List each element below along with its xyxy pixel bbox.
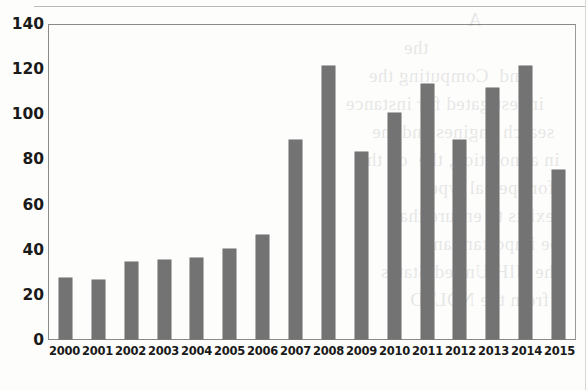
- bar-2003[interactable]: [158, 260, 171, 339]
- x-axis-tick-label: 2005: [213, 344, 246, 358]
- y-axis-tick-label: 80: [2, 150, 44, 168]
- y-axis-tick-label: 120: [2, 60, 44, 78]
- bar-2014[interactable]: [519, 66, 532, 339]
- bar-slot: [444, 25, 477, 339]
- x-axis-tick-label: 2010: [378, 344, 411, 358]
- bar-2005[interactable]: [223, 249, 236, 339]
- bar-slot: [49, 25, 82, 339]
- bar-2011[interactable]: [421, 84, 434, 339]
- y-axis-tick-label: 0: [2, 331, 44, 349]
- bar-slot: [411, 25, 444, 339]
- bar-2007[interactable]: [289, 140, 302, 339]
- x-axis-tick-label: 2011: [411, 344, 444, 358]
- x-axis-tick-label: 2006: [246, 344, 279, 358]
- bar-slot: [82, 25, 115, 339]
- plot-area: [48, 24, 576, 340]
- x-axis-tick-label: 2007: [279, 344, 312, 358]
- bar-series: [49, 25, 575, 339]
- bar-2004[interactable]: [190, 258, 203, 339]
- bar-2010[interactable]: [388, 113, 401, 339]
- y-axis: 020406080100120140: [0, 0, 44, 390]
- bar-2006[interactable]: [256, 235, 269, 339]
- x-axis-tick-label: 2000: [48, 344, 81, 358]
- bar-slot: [378, 25, 411, 339]
- bar-slot: [246, 25, 279, 339]
- bar-2008[interactable]: [322, 66, 335, 339]
- bar-slot: [542, 25, 575, 339]
- bar-2015[interactable]: [552, 170, 565, 339]
- bar-2002[interactable]: [125, 262, 138, 339]
- bar-2009[interactable]: [355, 152, 368, 339]
- bar-chart: 020406080100120140 200020012002200320042…: [0, 0, 588, 390]
- bar-slot: [345, 25, 378, 339]
- bar-slot: [213, 25, 246, 339]
- y-axis-tick-label: 40: [2, 241, 44, 259]
- bar-slot: [115, 25, 148, 339]
- bar-slot: [181, 25, 214, 339]
- x-axis-tick-label: 2012: [444, 344, 477, 358]
- y-axis-tick-label: 20: [2, 286, 44, 304]
- x-axis-tick-label: 2013: [477, 344, 510, 358]
- bar-slot: [509, 25, 542, 339]
- bar-slot: [312, 25, 345, 339]
- x-axis-tick-label: 2014: [510, 344, 543, 358]
- y-axis-tick-label: 100: [2, 105, 44, 123]
- bar-2001[interactable]: [92, 280, 105, 339]
- y-axis-tick-label: 140: [2, 15, 44, 33]
- x-axis-tick-label: 2009: [345, 344, 378, 358]
- y-axis-tick-label: 60: [2, 196, 44, 214]
- bar-2013[interactable]: [486, 88, 499, 339]
- x-axis: 2000200120022003200420052006200720082009…: [48, 344, 576, 358]
- bar-slot: [476, 25, 509, 339]
- x-axis-tick-label: 2001: [81, 344, 114, 358]
- x-axis-tick-label: 2004: [180, 344, 213, 358]
- bar-slot: [279, 25, 312, 339]
- bar-slot: [148, 25, 181, 339]
- x-axis-tick-label: 2008: [312, 344, 345, 358]
- x-axis-tick-label: 2002: [114, 344, 147, 358]
- x-axis-tick-label: 2003: [147, 344, 180, 358]
- bar-2000[interactable]: [59, 278, 72, 339]
- bar-2012[interactable]: [453, 140, 466, 339]
- x-axis-tick-label: 2015: [543, 344, 576, 358]
